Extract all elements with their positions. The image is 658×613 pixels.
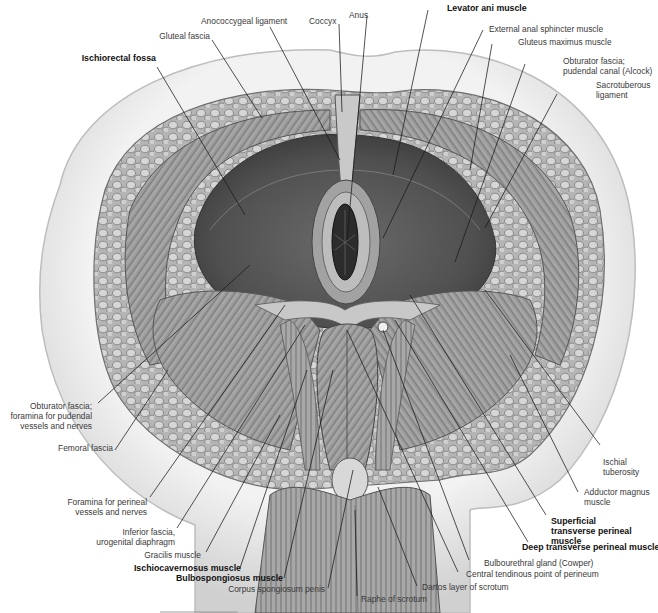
label-raphe-of-scrotum: Raphe of scrotum (361, 594, 427, 604)
label-ischiocavernosus-muscle: Ischiocavernosus muscle (134, 563, 241, 573)
label-line: tuberosity (603, 467, 639, 477)
label-central-tendinous-point: Central tendinous point of perineum (466, 569, 599, 579)
label-adductor-magnus-muscle: Adductor magnus muscle (584, 487, 650, 507)
label-line: Sacrotuberous (596, 80, 650, 90)
label-line: foramina for pudendal (11, 411, 92, 421)
label-dartos-layer-of-scrotum: Dartos layer of scrotum (422, 582, 509, 592)
label-bulbospongiosus-muscle: Bulbospongiosus muscle (176, 573, 283, 583)
label-levator-ani-muscle: Levator ani muscle (447, 3, 527, 13)
label-external-anal-sphincter-muscle: External anal sphincter muscle (489, 24, 603, 34)
label-sacrotuberous-ligament: Sacrotuberous ligament (596, 80, 650, 100)
label-foramina-perineal-vessels: Foramina for perineal vessels and nerves (67, 497, 147, 517)
label-inferior-fascia-urogenital-diaphragm: Inferior fascia, urogenital diaphragm (96, 527, 175, 547)
label-femoral-fascia: Femoral fascia (58, 443, 113, 453)
label-line: Inferior fascia, (96, 527, 175, 537)
label-line: muscle (584, 497, 650, 507)
label-obturator-fascia-foramina: Obturator fascia; foramina for pudendal … (11, 401, 92, 431)
label-line: Obturator fascia; (563, 56, 652, 66)
label-line: vessels and nerves (11, 421, 92, 431)
anatomical-figure: Ischiorectal fossa Gluteal fascia Anococ… (0, 0, 658, 613)
label-line: Ischial (603, 457, 639, 467)
label-corpus-spongiosum-penis: Corpus spongiosum penis (228, 584, 325, 594)
label-line: Adductor magnus (584, 487, 650, 497)
label-gluteal-fascia: Gluteal fascia (159, 31, 210, 41)
label-line: pudendal canal (Alcock) (563, 66, 652, 76)
label-anococcygeal-ligament: Anococcygeal ligament (201, 16, 287, 26)
label-line: vessels and nerves (67, 507, 147, 517)
label-deep-transverse-perineal-muscle: Deep transverse perineal muscle (522, 542, 658, 552)
label-line: transverse perineal (551, 526, 632, 536)
label-ischial-tuberosity: Ischial tuberosity (603, 457, 639, 477)
label-gracilis-muscle: Gracilis muscle (144, 550, 201, 560)
label-bulbourethral-gland: Bulbourethral gland (Cowper) (484, 558, 593, 568)
label-line: ligament (596, 90, 650, 100)
label-anus: Anus (349, 10, 368, 20)
corpus-spongiosum (332, 458, 368, 502)
label-gluteus-maximus-muscle: Gluteus maximus muscle (518, 37, 612, 47)
label-coccyx: Coccyx (309, 16, 336, 26)
label-line: urogenital diaphragm (96, 537, 175, 547)
label-line: Foramina for perineal (67, 497, 147, 507)
label-ischiorectal-fossa: Ischiorectal fossa (82, 53, 156, 63)
label-line: Obturator fascia; (11, 401, 92, 411)
label-obturator-fascia-pudendal-canal: Obturator fascia; pudendal canal (Alcock… (563, 56, 652, 76)
label-line: Superficial (551, 516, 632, 526)
